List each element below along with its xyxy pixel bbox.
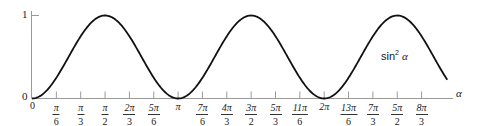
sine-squared-chart bbox=[0, 0, 481, 126]
x-tick-numerator: π bbox=[77, 103, 84, 115]
x-tick-numerator: 8π bbox=[416, 103, 428, 115]
curve-label-base: sin bbox=[381, 50, 395, 62]
x-tick-numerator: 5π bbox=[269, 103, 281, 115]
x-tick-denominator: 3 bbox=[419, 115, 424, 126]
x-label-zero: 0 bbox=[30, 101, 35, 111]
x-tick-numerator: 7π bbox=[196, 103, 208, 115]
x-tick-label: 8π3 bbox=[416, 103, 428, 126]
x-tick-denominator: 3 bbox=[78, 115, 83, 126]
x-tick-numerator: 13π bbox=[340, 103, 357, 115]
x-tick-label: π bbox=[176, 102, 181, 112]
x-tick-denominator: 6 bbox=[151, 115, 156, 126]
y-label-one: 1 bbox=[22, 9, 28, 20]
x-tick-denominator: 6 bbox=[346, 115, 351, 126]
x-tick-denominator: 6 bbox=[54, 115, 59, 126]
x-tick-numerator: 4π bbox=[221, 103, 233, 115]
x-tick-label: 11π6 bbox=[292, 103, 308, 126]
x-tick-numerator: 5π bbox=[391, 103, 403, 115]
curve-label-exponent: 2 bbox=[395, 49, 399, 56]
curve-label-var: α bbox=[402, 50, 408, 62]
x-tick-label: 4π3 bbox=[221, 103, 233, 126]
x-tick-denominator: 2 bbox=[395, 115, 400, 126]
x-tick-label: π3 bbox=[77, 103, 84, 126]
x-axis-label: α bbox=[456, 88, 462, 99]
x-tick-label: 13π6 bbox=[340, 103, 357, 126]
x-tick-denominator: 3 bbox=[224, 115, 229, 126]
x-tick-numerator: 7π bbox=[367, 103, 379, 115]
y-label-zero: 0 bbox=[22, 91, 28, 102]
x-tick-label: π6 bbox=[53, 103, 60, 126]
x-tick-label: 5π6 bbox=[148, 103, 160, 126]
x-tick-label: 3π2 bbox=[245, 103, 257, 126]
x-tick-numerator: 3π bbox=[245, 103, 257, 115]
x-tick-label: 7π3 bbox=[367, 103, 379, 126]
x-tick-label: 2π bbox=[319, 102, 329, 112]
x-tick-label: 2π3 bbox=[123, 103, 135, 126]
x-tick-label: π2 bbox=[102, 103, 109, 126]
x-tick-denominator: 3 bbox=[273, 115, 278, 126]
x-tick-numerator: 2π bbox=[123, 103, 135, 115]
x-tick-label: 7π6 bbox=[196, 103, 208, 126]
x-tick-numerator: 11π bbox=[292, 103, 308, 115]
x-tick-label: 5π3 bbox=[269, 103, 281, 126]
x-ticks bbox=[56, 92, 421, 99]
x-tick-denominator: 2 bbox=[249, 115, 254, 126]
x-tick-numerator: π bbox=[53, 103, 60, 115]
x-tick-denominator: 2 bbox=[103, 115, 108, 126]
x-tick-denominator: 3 bbox=[370, 115, 375, 126]
x-tick-denominator: 3 bbox=[127, 115, 132, 126]
x-tick-numerator: π bbox=[102, 103, 109, 115]
x-tick-denominator: 6 bbox=[200, 115, 205, 126]
x-tick-numerator: 5π bbox=[148, 103, 160, 115]
x-tick-denominator: 6 bbox=[297, 115, 302, 126]
curve-label: sin2 α bbox=[381, 49, 408, 62]
x-tick-label: 5π2 bbox=[391, 103, 403, 126]
